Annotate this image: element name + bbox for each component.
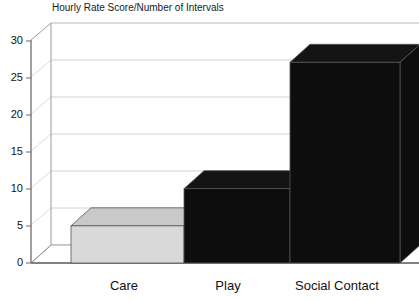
y-tick-label: 15 xyxy=(11,145,23,157)
bar-social-contact xyxy=(290,44,419,263)
x-axis-tick-labels: Care Play Social Contact xyxy=(110,278,379,293)
chart-plot-area: 0 5 10 15 20 25 30 Care Play Social Cont… xyxy=(0,0,419,301)
bar-front-face xyxy=(71,226,184,263)
y-axis-ticks xyxy=(26,41,31,263)
y-tick-label: 5 xyxy=(17,219,23,231)
y-tick-label: 30 xyxy=(11,34,23,46)
x-category-label: Care xyxy=(110,278,138,293)
y-axis-tick-labels: 0 5 10 15 20 25 30 xyxy=(11,34,23,268)
bars-group xyxy=(71,44,419,263)
x-category-label: Play xyxy=(215,278,241,293)
y-tick-label: 10 xyxy=(11,182,23,194)
bar-chart: Hourly Rate Score/Number of Intervals xyxy=(0,0,419,301)
axis-side-wall xyxy=(31,23,51,263)
y-tick-label: 25 xyxy=(11,71,23,83)
x-category-label: Social Contact xyxy=(295,278,379,293)
bar-side-face xyxy=(400,44,419,263)
bar-top-face xyxy=(290,44,419,62)
y-tick-label: 20 xyxy=(11,108,23,120)
y-tick-label: 0 xyxy=(17,256,23,268)
bar-front-face xyxy=(290,62,400,263)
bar-front-face xyxy=(184,189,290,263)
